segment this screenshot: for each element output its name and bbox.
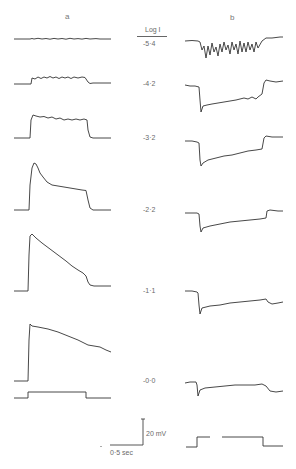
trace-a-2 <box>14 77 111 85</box>
trace-b-1 <box>185 37 283 58</box>
scale-bar <box>101 419 145 447</box>
trace-b-4 <box>185 210 283 232</box>
trace-b-3 <box>185 136 283 166</box>
trace-b-5 <box>185 291 283 314</box>
traces-canvas <box>0 0 296 469</box>
trace-a-5 <box>14 234 111 291</box>
trace-a-4 <box>14 163 111 210</box>
trace-a-3 <box>14 115 111 138</box>
trace-a-1 <box>14 38 111 39</box>
stimulus-monitor-b <box>186 437 283 447</box>
trace-b-2 <box>185 80 283 112</box>
trace-b-6 <box>185 382 283 396</box>
stimulus-monitor-a <box>14 392 111 398</box>
trace-a-6 <box>14 324 111 381</box>
